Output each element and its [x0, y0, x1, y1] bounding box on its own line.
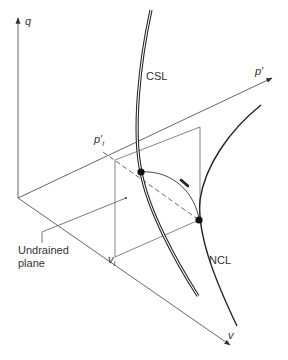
csl-label: CSL: [146, 70, 167, 82]
diagram-canvas: q p′ v CSL NCL p′i vi Undrained plane: [0, 0, 288, 360]
p-i-subscript: i: [102, 139, 104, 148]
undrained-plane-label-line1: Undrained: [18, 244, 69, 256]
ncl-curve: [200, 105, 261, 326]
ncl-label: NCL: [209, 254, 231, 266]
undrained-plane-leader: [42, 197, 127, 243]
csl-state-point: [137, 168, 144, 175]
p-prime-axis: [18, 78, 272, 198]
v-axis-label: v: [228, 329, 235, 341]
ncl-state-point: [195, 216, 202, 223]
p-prime-axis-label: p′: [254, 65, 264, 77]
v-i-label: vi: [108, 253, 116, 268]
undrained-plane-label-line2: plane: [18, 257, 45, 269]
v-i-subscript: i: [114, 259, 116, 268]
q-axis-label: q: [25, 15, 32, 27]
undrained-path-arc: [141, 172, 199, 218]
csl-curve: [137, 10, 198, 296]
p-i-label: p′i: [93, 133, 104, 148]
